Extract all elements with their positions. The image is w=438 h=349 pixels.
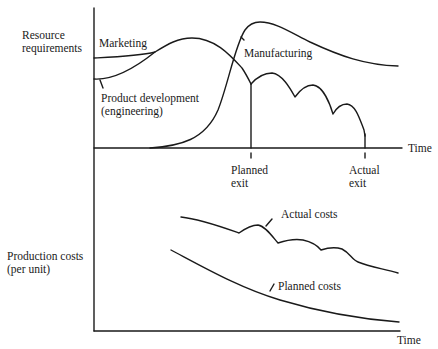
prod-cost-line1: Production costs <box>7 250 83 263</box>
product-dev-line1: Product development <box>101 92 199 105</box>
actual-exit-label: Actual exit <box>349 164 380 190</box>
ylabel-line1: Resource <box>22 29 82 42</box>
prod-cost-line2: (per unit) <box>7 263 83 276</box>
resource-requirements-label: Resource requirements <box>22 29 82 55</box>
actual-costs-leader <box>266 219 272 226</box>
bottom-time-label: Time <box>397 334 421 347</box>
manufacturing-label: Manufacturing <box>244 47 312 60</box>
planned-exit-line2: exit <box>231 177 268 190</box>
manufacturing-curve <box>150 22 398 148</box>
product-development-label: Product development (engineering) <box>101 92 199 118</box>
actual-exit-line2: exit <box>349 177 380 190</box>
product-dev-line2: (engineering) <box>101 105 199 118</box>
product-dev-leader <box>100 80 103 88</box>
ylabel-line2: requirements <box>22 42 82 55</box>
planned-exit-line1: Planned <box>231 164 268 177</box>
production-costs-label: Production costs (per unit) <box>7 250 83 276</box>
planned-costs-label: Planned costs <box>278 280 341 293</box>
actual-costs-curve <box>181 217 398 273</box>
actual-exit-line1: Actual <box>349 164 380 177</box>
planned-costs-leader <box>270 284 274 291</box>
actual-resource-curve <box>251 73 365 136</box>
top-time-label: Time <box>408 142 432 155</box>
planned-exit-label: Planned exit <box>231 164 268 190</box>
marketing-label: Marketing <box>99 37 147 50</box>
actual-costs-label: Actual costs <box>281 208 338 221</box>
